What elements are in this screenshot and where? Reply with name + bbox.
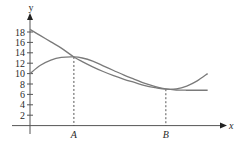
y-tick-label: 18 [15, 27, 25, 38]
marker-label-b: B [163, 129, 169, 140]
y-tick-label: 12 [15, 58, 25, 69]
y-axis-label: y [29, 2, 34, 13]
x-axis-arrow-icon [220, 123, 227, 129]
y-axis-arrow-icon [27, 13, 33, 20]
marker-label-a: A [70, 129, 78, 140]
series-curves [30, 29, 208, 90]
x-axis-label: x [228, 120, 234, 131]
y-tick-label: 16 [15, 37, 25, 48]
curve-2 [30, 57, 208, 90]
y-tick-label: 10 [15, 68, 25, 79]
x-axis [12, 123, 227, 129]
y-tick-label: 6 [20, 89, 25, 100]
chart: 24681012141618 AB y x [0, 0, 239, 144]
y-tick-label: 8 [20, 79, 25, 90]
curve-1 [30, 29, 208, 89]
marker-lines: AB [70, 57, 169, 140]
y-tick-label: 14 [15, 47, 25, 58]
y-tick-label: 2 [20, 110, 25, 121]
y-tick-label: 4 [20, 99, 25, 110]
